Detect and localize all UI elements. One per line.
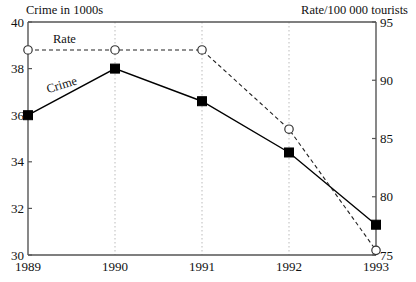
x-axis-tick-1991: 1991 [172,260,232,273]
x-axis-tick-1993: 1993 [346,260,406,273]
y-axis-tick-32: 32 [0,202,24,215]
y-axis-tick-36: 36 [0,109,24,122]
y2-axis-tick-80: 80 [380,190,410,203]
chart-container: Crime in 1000s Rate/100 000 tourists Rat… [0,0,416,282]
x-axis-tick-1990: 1990 [85,260,145,273]
x-axis-tick-1992: 1992 [259,260,319,273]
y-axis-tick-34: 34 [0,155,24,168]
y2-axis-tick-85: 85 [380,132,410,145]
y-axis-tick-40: 40 [0,16,24,29]
y2-axis-tick-95: 95 [380,16,410,29]
gridlines [115,22,289,255]
y2-axis-tick-90: 90 [380,74,410,87]
series-label-rate: Rate [52,33,77,46]
y-axis-tick-38: 38 [0,62,24,75]
x-axis-tick-1989: 1989 [0,260,58,273]
